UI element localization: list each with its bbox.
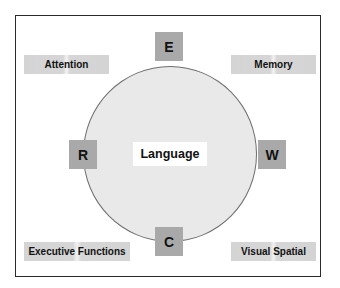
letter-box-bottom: C [155,227,183,256]
letter-box-top: E [155,32,183,61]
center-label-language: Language [133,142,207,166]
letter-box-left: R [69,140,97,169]
corner-label-executive-functions: Executive Functions [24,242,130,261]
corner-label-visual-spatial: Visual Spatial [231,242,316,261]
corner-label-attention: Attention [24,55,109,74]
corner-label-memory: Memory [231,55,316,74]
letter-box-right: W [258,140,286,169]
